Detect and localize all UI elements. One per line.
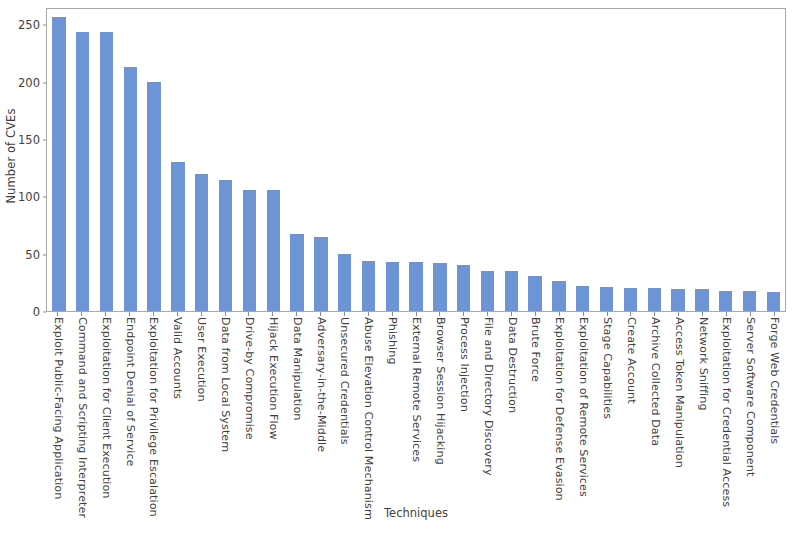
bar-chart-figure: Number of CVEs 050100150200250 Exploit P… [0, 0, 795, 541]
bar-slot [738, 9, 762, 311]
x-axis-tick-mark [153, 312, 154, 316]
bar [552, 281, 565, 311]
x-axis-tick-label: Hijack Execution Flow [266, 317, 279, 440]
y-axis-ticks: 050100150200250 [0, 0, 46, 320]
bar-slot [595, 9, 619, 311]
x-axis-tick-label: Endpoint Denial of Service [123, 317, 136, 467]
x-axis-label-slot: Forge Web Credentials [762, 317, 786, 502]
x-axis-tick-mark [296, 312, 297, 316]
x-axis-tick-mark [583, 312, 584, 316]
x-axis-label-slot: Stage Capabilities [595, 317, 619, 502]
bar [505, 271, 518, 311]
x-axis-label-slot: File and Directory Discovery [476, 317, 500, 502]
x-axis-tick-mark [81, 312, 82, 316]
x-axis-label-slot: Exploitation for Privilege Escalation [142, 317, 166, 502]
x-axis-tick-label: Data Manipulation [290, 317, 303, 420]
x-axis-tick-label: Phishing [386, 317, 399, 365]
bar-slot [523, 9, 547, 311]
bar-slot [714, 9, 738, 311]
bar-slot [214, 9, 238, 311]
bar [100, 32, 113, 311]
bar [528, 276, 541, 311]
y-axis-tick-label: 200 [18, 76, 40, 90]
x-axis-tick-label: Network Sniffing [696, 317, 709, 411]
bar-slot [404, 9, 428, 311]
x-axis-tick-mark [272, 312, 273, 316]
x-axis-tick-mark [487, 312, 488, 316]
x-axis-label-slot: Hijack Execution Flow [261, 317, 285, 502]
bar-slot [95, 9, 119, 311]
x-axis-label-slot: Data Manipulation [285, 317, 309, 502]
x-axis-tick-mark [630, 312, 631, 316]
bar-slot [333, 9, 357, 311]
bar-slot [71, 9, 95, 311]
bar [433, 263, 446, 311]
x-axis-tick-mark [511, 312, 512, 316]
x-axis-label-slot: User Execution [189, 317, 213, 502]
bar [624, 288, 637, 311]
x-axis-label-slot: Browser Session Hijacking [428, 317, 452, 502]
x-axis-tick-label: Process Injection [457, 317, 470, 412]
x-axis-label-slot: Exploit Public-Facing Application [46, 317, 70, 502]
bar [76, 32, 89, 311]
bar [195, 174, 208, 311]
bar-slot [357, 9, 381, 311]
x-axis-tick-mark [750, 312, 751, 316]
x-axis-tick-mark [129, 312, 130, 316]
x-axis-tick-label: File and Directory Discovery [481, 317, 494, 476]
x-axis-tick-mark [416, 312, 417, 316]
x-axis-title: Techniques [46, 506, 786, 520]
bar [124, 67, 137, 311]
x-axis-tick-label: Valid Accounts [171, 317, 184, 399]
x-axis-label-slot: Exploitation for Defense Evasion [547, 317, 571, 502]
bar [719, 291, 732, 312]
x-axis-tick-mark [320, 312, 321, 316]
x-axis-tick-mark [678, 312, 679, 316]
x-axis-tick-label: Drive-by Compromise [242, 317, 255, 440]
x-axis-label-slot: Exploitation for Credential Access [715, 317, 739, 502]
x-axis-tick-label: Command and Scripting Interpreter [75, 317, 88, 518]
x-axis-tick-label: Exploitation for Privilege Escalation [147, 317, 160, 517]
x-axis-tick-label: External Remote Services [410, 317, 423, 462]
x-axis-tick-label: Create Account [624, 317, 637, 404]
bar-slot [761, 9, 785, 311]
bar-slot [547, 9, 571, 311]
bar-slot [238, 9, 262, 311]
x-axis-tick-label: User Execution [195, 317, 208, 402]
bar [409, 262, 422, 311]
bar [267, 190, 280, 311]
x-axis-tick-label: Server Software Component [744, 317, 757, 476]
bar-slot [261, 9, 285, 311]
x-axis-tick-label: Exploitation for Client Execution [99, 317, 112, 499]
x-axis-label-slot: Access Token Manipulation [667, 317, 691, 502]
x-axis-tick-mark [368, 312, 369, 316]
x-axis-tick-mark [248, 312, 249, 316]
bar [481, 271, 494, 311]
x-axis-label-slot: Exploitation of Remote Services [571, 317, 595, 502]
x-axis-label-slot: External Remote Services [404, 317, 428, 502]
bar-slot [476, 9, 500, 311]
x-axis-tick-label: Archive Collected Data [648, 317, 661, 446]
x-axis-tick-mark [225, 312, 226, 316]
x-axis-label-slot: Abuse Elevation Control Mechanism [356, 317, 380, 502]
bar-slot [166, 9, 190, 311]
x-axis-tick-mark [607, 312, 608, 316]
bar-slot [380, 9, 404, 311]
bar-slot [619, 9, 643, 311]
x-axis-label-slot: Phishing [380, 317, 404, 502]
x-axis-tick-label: Abuse Elevation Control Mechanism [362, 317, 375, 520]
x-axis-tick-mark [439, 312, 440, 316]
x-axis-tick-mark [344, 312, 345, 316]
x-axis-tick-label: Browser Session Hijacking [433, 317, 446, 465]
bar-slot [285, 9, 309, 311]
x-axis-tick-label: Forge Web Credentials [768, 317, 781, 444]
bar [338, 254, 351, 311]
x-axis-tick-labels: Exploit Public-Facing ApplicationCommand… [46, 317, 786, 502]
x-axis-tick-label: Data from Local System [219, 317, 232, 452]
x-axis-tick-mark [654, 312, 655, 316]
x-axis-label-slot: Data Destruction [500, 317, 524, 502]
x-axis-tick-mark [726, 312, 727, 316]
bar-slot [309, 9, 333, 311]
bar-slot [118, 9, 142, 311]
x-axis-label-slot: Create Account [619, 317, 643, 502]
